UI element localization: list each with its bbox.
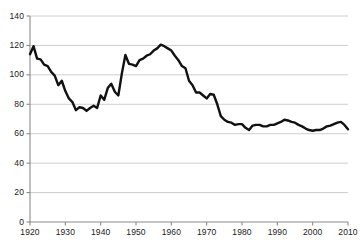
gridlines [30,16,348,193]
x-tick-label: 1990 [257,228,297,237]
x-tick-label: 1940 [81,228,121,237]
y-tick-label: 140 [0,12,24,21]
x-tick-label: 1920 [10,228,50,237]
y-tick-label: 60 [0,129,24,138]
y-tick-label: 80 [0,100,24,109]
x-tick-label: 2000 [293,228,333,237]
line-chart: 020406080100120140 192019301940195019601… [0,0,360,245]
y-tick-label: 100 [0,70,24,79]
data-series-line [30,45,348,131]
y-tick-label: 0 [0,218,24,227]
x-tick-label: 1930 [45,228,85,237]
x-tick-label: 1970 [187,228,227,237]
y-tick-label: 40 [0,159,24,168]
x-tick-label: 1950 [116,228,156,237]
x-tick-label: 2010 [328,228,360,237]
y-tick-label: 120 [0,41,24,50]
x-tick-label: 1980 [222,228,262,237]
x-tick-label: 1960 [151,228,191,237]
chart-plot-area [0,0,360,245]
axis-tick-marks [27,16,349,226]
y-tick-label: 20 [0,188,24,197]
